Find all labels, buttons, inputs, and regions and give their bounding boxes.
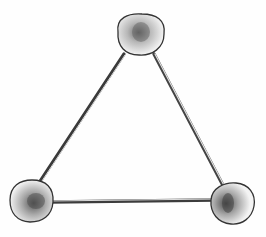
ball-bottom-right (211, 183, 254, 224)
ball-bottom-left (10, 180, 53, 222)
ball-top (118, 14, 164, 55)
stick-left (37, 54, 125, 187)
stick-right (154, 54, 228, 193)
sketch-canvas: Triangle model: three sticks connected b… (0, 0, 266, 237)
triangle-model-drawing (0, 0, 266, 237)
stick-bottom (50, 199, 216, 202)
